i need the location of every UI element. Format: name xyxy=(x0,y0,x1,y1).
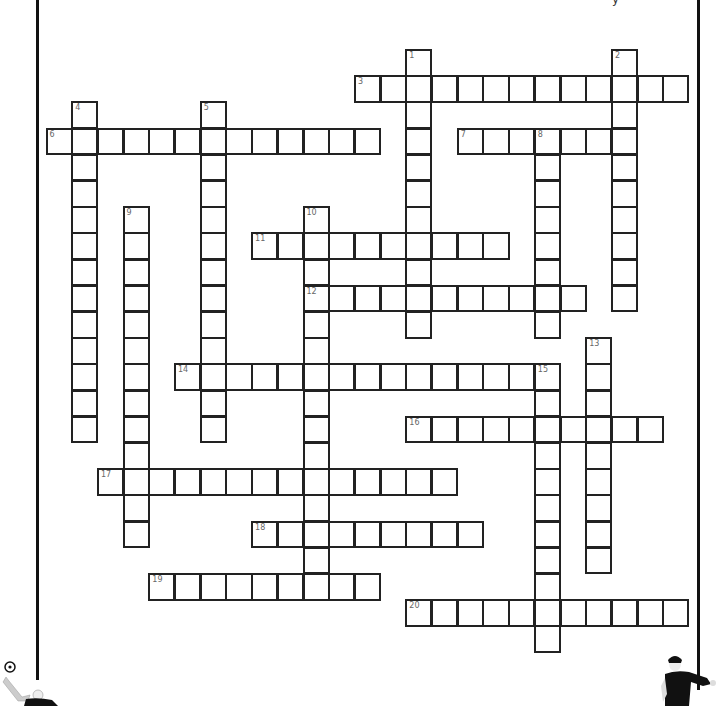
crossword-cell[interactable] xyxy=(405,285,432,313)
crossword-cell[interactable] xyxy=(123,494,150,522)
crossword-cell[interactable] xyxy=(585,442,612,470)
crossword-cell[interactable] xyxy=(534,206,561,234)
crossword-cell[interactable] xyxy=(508,75,535,103)
crossword-cell[interactable] xyxy=(611,416,638,444)
crossword-cell[interactable] xyxy=(303,494,330,522)
crossword-cell[interactable] xyxy=(328,363,355,391)
crossword-cell[interactable] xyxy=(405,154,432,182)
crossword-cell[interactable] xyxy=(611,599,638,627)
crossword-cell[interactable]: 19 xyxy=(148,573,175,601)
crossword-cell[interactable] xyxy=(431,521,458,549)
crossword-cell[interactable] xyxy=(457,75,484,103)
crossword-cell[interactable] xyxy=(225,128,252,156)
crossword-cell[interactable] xyxy=(534,625,561,653)
crossword-cell[interactable] xyxy=(405,206,432,234)
crossword-cell[interactable]: 3 xyxy=(354,75,381,103)
crossword-cell[interactable] xyxy=(71,311,98,339)
crossword-cell[interactable] xyxy=(611,154,638,182)
crossword-cell[interactable] xyxy=(457,363,484,391)
crossword-cell[interactable] xyxy=(71,180,98,208)
crossword-cell[interactable] xyxy=(585,547,612,575)
crossword-cell[interactable] xyxy=(405,75,432,103)
crossword-cell[interactable] xyxy=(71,416,98,444)
crossword-cell[interactable] xyxy=(457,416,484,444)
crossword-cell[interactable]: 5 xyxy=(200,101,227,129)
crossword-cell[interactable]: 18 xyxy=(251,521,278,549)
crossword-cell[interactable] xyxy=(303,311,330,339)
crossword-cell[interactable] xyxy=(225,573,252,601)
crossword-cell[interactable] xyxy=(251,128,278,156)
crossword-cell[interactable] xyxy=(560,599,587,627)
crossword-cell[interactable]: 4 xyxy=(71,101,98,129)
crossword-cell[interactable] xyxy=(328,468,355,496)
crossword-cell[interactable] xyxy=(200,180,227,208)
crossword-cell[interactable] xyxy=(431,232,458,260)
crossword-cell[interactable] xyxy=(585,75,612,103)
crossword-cell[interactable]: 15 xyxy=(534,363,561,391)
crossword-cell[interactable] xyxy=(380,521,407,549)
crossword-cell[interactable] xyxy=(611,128,638,156)
crossword-cell[interactable] xyxy=(637,75,664,103)
crossword-cell[interactable] xyxy=(662,75,689,103)
crossword-cell[interactable] xyxy=(354,363,381,391)
crossword-cell[interactable] xyxy=(508,363,535,391)
crossword-cell[interactable] xyxy=(431,363,458,391)
crossword-cell[interactable] xyxy=(277,363,304,391)
crossword-cell[interactable] xyxy=(431,416,458,444)
crossword-cell[interactable] xyxy=(534,259,561,287)
crossword-cell[interactable]: 7 xyxy=(457,128,484,156)
crossword-cell[interactable] xyxy=(457,521,484,549)
crossword-cell[interactable] xyxy=(328,232,355,260)
crossword-cell[interactable] xyxy=(611,232,638,260)
crossword-cell[interactable] xyxy=(123,337,150,365)
crossword-cell[interactable] xyxy=(534,75,561,103)
crossword-cell[interactable] xyxy=(200,337,227,365)
crossword-cell[interactable] xyxy=(354,521,381,549)
crossword-cell[interactable]: 11 xyxy=(251,232,278,260)
crossword-cell[interactable] xyxy=(148,468,175,496)
crossword-cell[interactable] xyxy=(508,285,535,313)
crossword-cell[interactable] xyxy=(123,128,150,156)
crossword-cell[interactable] xyxy=(200,206,227,234)
crossword-cell[interactable]: 8 xyxy=(534,128,561,156)
crossword-cell[interactable] xyxy=(225,363,252,391)
crossword-cell[interactable] xyxy=(405,259,432,287)
crossword-cell[interactable] xyxy=(585,599,612,627)
crossword-cell[interactable] xyxy=(508,416,535,444)
crossword-cell[interactable] xyxy=(303,468,330,496)
crossword-cell[interactable] xyxy=(482,363,509,391)
crossword-cell[interactable]: 14 xyxy=(174,363,201,391)
crossword-cell[interactable] xyxy=(303,442,330,470)
crossword-cell[interactable] xyxy=(534,390,561,418)
crossword-cell[interactable] xyxy=(405,128,432,156)
crossword-cell[interactable] xyxy=(303,337,330,365)
crossword-cell[interactable] xyxy=(431,468,458,496)
crossword-cell[interactable] xyxy=(405,521,432,549)
crossword-cell[interactable] xyxy=(328,128,355,156)
crossword-cell[interactable] xyxy=(560,285,587,313)
crossword-cell[interactable] xyxy=(534,547,561,575)
crossword-cell[interactable] xyxy=(71,232,98,260)
crossword-cell[interactable] xyxy=(123,232,150,260)
crossword-cell[interactable] xyxy=(303,521,330,549)
crossword-cell[interactable] xyxy=(303,547,330,575)
crossword-cell[interactable] xyxy=(611,206,638,234)
crossword-cell[interactable] xyxy=(97,128,124,156)
crossword-cell[interactable] xyxy=(251,573,278,601)
crossword-cell[interactable] xyxy=(303,259,330,287)
crossword-cell[interactable] xyxy=(303,390,330,418)
crossword-cell[interactable] xyxy=(637,416,664,444)
crossword-cell[interactable] xyxy=(534,442,561,470)
crossword-cell[interactable]: 2 xyxy=(611,49,638,77)
crossword-cell[interactable] xyxy=(585,128,612,156)
crossword-cell[interactable] xyxy=(457,599,484,627)
crossword-cell[interactable] xyxy=(611,259,638,287)
crossword-cell[interactable] xyxy=(534,285,561,313)
crossword-cell[interactable] xyxy=(431,285,458,313)
crossword-cell[interactable] xyxy=(71,259,98,287)
crossword-cell[interactable] xyxy=(174,128,201,156)
crossword-cell[interactable] xyxy=(174,573,201,601)
crossword-cell[interactable] xyxy=(585,416,612,444)
crossword-cell[interactable] xyxy=(200,259,227,287)
crossword-cell[interactable] xyxy=(303,128,330,156)
